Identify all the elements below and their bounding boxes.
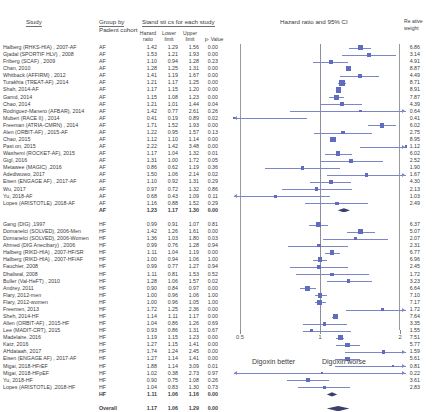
cell-upper-limit: 1.26 xyxy=(181,320,199,327)
cell-upper-limit: 1.06 xyxy=(181,292,199,299)
point-estimate-marker xyxy=(381,308,384,311)
point-estimate-marker xyxy=(349,159,353,163)
cell-relative-weight: 5.77 xyxy=(404,341,420,348)
cell-hazard-ratio: 1.00 xyxy=(139,256,157,263)
cell-relative-weight: 2.13 xyxy=(404,186,420,193)
cell-p-value: 0.00 xyxy=(203,72,218,79)
cell-upper-limit: 1.61 xyxy=(181,228,199,235)
cell-upper-limit: 1.31 xyxy=(181,65,199,72)
cell-study: Katz, 2016 xyxy=(3,341,28,348)
cell-group: HF xyxy=(99,228,106,235)
cell-hazard-ratio: 1.27 xyxy=(139,355,157,362)
subheader-p-value: p- Value xyxy=(203,37,225,43)
cell-group: HF xyxy=(99,256,106,263)
cell-group: HF xyxy=(99,278,106,285)
cell-study: Eisen (ENGAGE AF) , 2017-AF xyxy=(3,178,77,185)
cell-upper-limit: 1.31 xyxy=(181,327,199,334)
cell-group: HF xyxy=(99,334,106,341)
cell-relative-weight: 3.23 xyxy=(404,278,420,285)
cell-lower-limit: 0.62 xyxy=(160,164,178,171)
axis-line-right xyxy=(399,44,400,330)
cell-lower-limit: 0.83 xyxy=(160,384,178,391)
cell-lower-limit: 1.42 xyxy=(160,143,178,150)
cell-p-value: 0.97 xyxy=(203,370,218,377)
header-relative-weight-line2: weight xyxy=(404,25,419,31)
cell-study: Washemi (ROCKET-AF), 2015 xyxy=(3,150,75,157)
confidence-interval-line xyxy=(346,310,406,311)
cell-group: AF xyxy=(99,150,106,157)
cell-hazard-ratio: 1.28 xyxy=(139,278,157,285)
cell-relative-weight: 4.30 xyxy=(404,178,420,185)
axis-tick-label: 0.5 xyxy=(236,334,244,340)
cell-hazard-ratio: 1.16 xyxy=(139,200,157,207)
table-row-summary: HF1.111.061.160.00 xyxy=(0,391,432,398)
cell-relative-weight: 8.95 xyxy=(404,136,420,143)
cell-group: HF xyxy=(99,249,106,256)
cell-group: AF xyxy=(99,51,106,58)
cell-group: HF xyxy=(99,299,106,306)
cell-p-value: 0.36 xyxy=(203,164,218,171)
x-axis: 0.512 xyxy=(240,330,400,331)
cell-group: AF xyxy=(99,72,106,79)
header-relative-weight-line1: Re ative xyxy=(404,18,423,24)
cell-relative-weight: 5.07 xyxy=(404,228,420,235)
cell-p-value: 0.52 xyxy=(203,271,218,278)
cell-hazard-ratio: 1.04 xyxy=(139,320,157,327)
cell-group: AF xyxy=(99,164,106,171)
cell-lower-limit: 0.94 xyxy=(160,256,178,263)
cell-study: Lopes (ARISTOTLE) ,2018-HF xyxy=(3,384,75,391)
point-estimate-marker xyxy=(321,372,323,374)
cell-upper-limit: 1.29 xyxy=(181,405,199,412)
cell-study: Lopes (ARISTOTLE) ,2018-AF xyxy=(3,200,75,207)
table-row-summary: Overall1.171.061.290.00 xyxy=(0,405,432,412)
cell-group: HF xyxy=(99,242,106,249)
cell-hazard-ratio: 1.22 xyxy=(139,129,157,136)
cell-lower-limit: 1.17 xyxy=(160,207,178,214)
cell-upper-limit: 1.30 xyxy=(181,384,199,391)
point-estimate-marker xyxy=(329,180,333,184)
cell-upper-limit: 2.45 xyxy=(181,348,199,355)
cell-study: Lee (MADIT-CRT), 2015 xyxy=(3,327,60,334)
cell-upper-limit: 1.57 xyxy=(181,129,199,136)
cell-group: AF xyxy=(99,86,106,93)
cell-p-value: 0.00 xyxy=(203,391,218,398)
cell-study: Chao, 2015 xyxy=(3,136,30,143)
point-estimate-marker xyxy=(338,335,343,340)
cell-relative-weight: 3.35 xyxy=(404,320,420,327)
cell-hazard-ratio: 0.99 xyxy=(139,263,157,270)
cell-hazard-ratio: 1.17 xyxy=(139,150,157,157)
cell-group: HF xyxy=(99,355,106,362)
point-estimate-marker xyxy=(318,293,323,298)
cell-p-value: 0.00 xyxy=(203,228,218,235)
cell-study: Halberg (RIKD-HIA) , 2007-HF/SR xyxy=(3,249,84,256)
cell-group: AF xyxy=(99,200,106,207)
cell-study: Flary, 2012-men xyxy=(3,292,41,299)
cell-p-value: 0.01 xyxy=(203,150,218,157)
cell-lower-limit: 1.15 xyxy=(160,86,178,93)
cell-lower-limit: 1.06 xyxy=(160,278,178,285)
cell-upper-limit: 1.17 xyxy=(181,313,199,320)
cell-study: Dhaliwal, 2008 xyxy=(3,271,38,278)
cell-group: AF xyxy=(99,171,106,178)
ci-arrow-right xyxy=(402,308,405,312)
point-estimate-marker xyxy=(305,286,310,291)
cell-relative-weight: 6.86 xyxy=(404,44,420,51)
cell-p-value: 0.00 xyxy=(203,313,218,320)
cell-group: AF xyxy=(99,122,106,129)
table-row: Katz, 2016HF1.271.151.410.005.77 xyxy=(0,341,432,348)
subheader-lower-limit: Lowerlimit xyxy=(160,31,178,42)
cell-upper-limit: 1.05 xyxy=(181,299,199,306)
subtotal-diamond xyxy=(338,208,350,212)
cell-upper-limit: 1.67 xyxy=(181,72,199,79)
cell-lower-limit: 1.17 xyxy=(160,79,178,86)
point-estimate-marker xyxy=(301,166,304,169)
cell-lower-limit: 1.21 xyxy=(160,51,178,58)
cell-study: Gjadal (SPORTIF HLV) , 2008 xyxy=(3,51,74,58)
table-row: Madelaire, 2016HF1.191.151.230.007.51 xyxy=(0,334,432,341)
cell-group: AF xyxy=(99,101,106,108)
ci-arrow-right xyxy=(402,364,405,368)
confidence-interval-line xyxy=(290,111,406,112)
cell-hazard-ratio: 1.36 xyxy=(139,235,157,242)
cell-relative-weight: 0.41 xyxy=(404,115,420,122)
cell-lower-limit: 0.95 xyxy=(160,129,178,136)
